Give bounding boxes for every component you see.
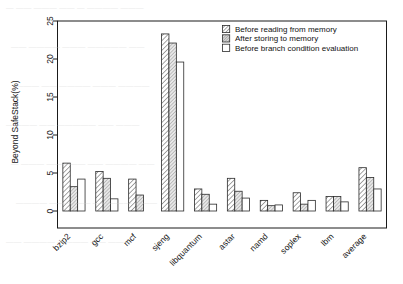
bar bbox=[242, 198, 249, 211]
y-tick-label: 5 bbox=[45, 170, 55, 175]
bar bbox=[194, 189, 201, 211]
bar bbox=[209, 204, 216, 211]
bar-group bbox=[326, 197, 348, 211]
bar bbox=[162, 34, 169, 211]
bar-group bbox=[227, 178, 249, 211]
bar bbox=[111, 199, 118, 211]
bar bbox=[63, 163, 70, 211]
bar-group bbox=[162, 34, 184, 211]
chart-figure: —— ———— ———— —— ——————— ——— —— ————— ———… bbox=[0, 0, 403, 284]
bar bbox=[129, 179, 136, 211]
bar bbox=[103, 178, 110, 211]
y-tick-label: 15 bbox=[45, 92, 55, 102]
bar-group bbox=[194, 189, 216, 211]
bar bbox=[301, 204, 308, 211]
legend-label: Before reading from memory bbox=[235, 25, 337, 34]
bar bbox=[341, 202, 348, 211]
bar bbox=[366, 178, 373, 211]
x-tick-label: lbm bbox=[319, 231, 336, 248]
bar bbox=[169, 43, 176, 211]
x-tick-label: mcf bbox=[121, 231, 138, 248]
bar-group bbox=[96, 171, 118, 211]
legend: Before reading from memoryAfter storing … bbox=[223, 25, 359, 53]
bar-group bbox=[260, 200, 282, 211]
bar-group bbox=[63, 163, 85, 211]
bar-group bbox=[359, 168, 381, 211]
bar bbox=[333, 197, 340, 211]
x-tick-label: sjeng bbox=[150, 231, 172, 253]
bar bbox=[136, 195, 143, 211]
x-tick-label: gcc bbox=[89, 231, 106, 248]
bar bbox=[275, 205, 282, 211]
bar bbox=[96, 171, 103, 211]
legend-swatch bbox=[223, 44, 230, 51]
bar bbox=[293, 193, 300, 211]
bar bbox=[326, 197, 333, 211]
y-axis: 0510152025 bbox=[45, 16, 58, 213]
bar bbox=[70, 187, 77, 211]
bar bbox=[268, 206, 275, 211]
bar bbox=[359, 168, 366, 211]
x-tick-label: bzip2 bbox=[51, 231, 73, 253]
legend-label: After storing to memory bbox=[235, 34, 318, 43]
x-tick-label: average bbox=[340, 231, 369, 260]
bar bbox=[308, 200, 315, 211]
bars-group bbox=[63, 34, 381, 211]
bar bbox=[235, 191, 242, 211]
y-tick-label: 20 bbox=[45, 54, 55, 64]
x-tick-label: libquantum bbox=[167, 231, 203, 267]
x-tick-label: astar bbox=[216, 231, 237, 252]
bar bbox=[227, 178, 234, 211]
bar bbox=[260, 200, 267, 211]
x-tick-label: namd bbox=[248, 231, 270, 253]
y-tick-label: 10 bbox=[45, 130, 55, 140]
legend-swatch bbox=[223, 25, 230, 32]
bar-group bbox=[129, 179, 144, 211]
bar bbox=[78, 179, 85, 211]
y-axis-title: Beyond SafeStack(%) bbox=[10, 80, 20, 163]
y-tick-label: 25 bbox=[45, 16, 55, 26]
y-tick-label: 0 bbox=[45, 208, 55, 213]
legend-label: Before branch condition evaluation bbox=[235, 44, 358, 53]
legend-swatch bbox=[223, 35, 230, 42]
bar bbox=[374, 189, 381, 211]
bar-group bbox=[293, 193, 315, 211]
bar bbox=[202, 194, 209, 211]
bar bbox=[176, 62, 183, 211]
x-tick-label: soplex bbox=[278, 231, 303, 256]
